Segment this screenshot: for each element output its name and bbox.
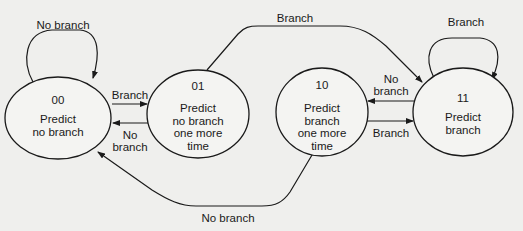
state-00-line-1: Predict: [18, 113, 98, 126]
state-01-line-4: time: [158, 140, 238, 153]
label-10-to-11: Branch: [368, 127, 414, 139]
state-10-line-3: one more: [282, 127, 362, 140]
branch-predictor-state-diagram: 00 Predict no branch 01 Predict no branc…: [0, 0, 523, 231]
label-00-self-loop: No branch: [33, 19, 93, 31]
state-10-text: Predict branch one more time: [282, 102, 362, 152]
label-11-to-10: No branch: [368, 73, 414, 97]
label-01-to-00-line-2: branch: [110, 141, 150, 153]
state-00-text: Predict no branch: [18, 113, 98, 138]
label-11-self-loop: Branch: [443, 16, 489, 28]
state-01-line-2: no branch: [158, 115, 238, 128]
state-01-id: 01: [185, 80, 211, 92]
state-11-line-2: branch: [423, 124, 503, 137]
state-01-line-1: Predict: [158, 102, 238, 115]
state-01-text: Predict no branch one more time: [158, 102, 238, 152]
state-00-id: 00: [45, 94, 71, 106]
state-01-line-3: one more: [158, 127, 238, 140]
label-11-to-10-line-1: No: [368, 73, 414, 85]
state-11-line-1: Predict: [423, 111, 503, 124]
state-11-id: 11: [450, 92, 476, 104]
state-10-line-4: time: [282, 140, 362, 153]
label-01-to-00-line-1: No: [110, 129, 150, 141]
state-11-text: Predict branch: [423, 111, 503, 136]
label-00-to-01: Branch: [110, 89, 150, 101]
label-01-to-00: No branch: [110, 129, 150, 153]
arrow-10-to-00: [98, 152, 312, 206]
label-01-to-11: Branch: [270, 12, 320, 24]
state-00-line-2: no branch: [18, 126, 98, 139]
state-10-line-2: branch: [282, 115, 362, 128]
state-10-line-1: Predict: [282, 102, 362, 115]
label-11-to-10-line-2: branch: [368, 85, 414, 97]
state-10-id: 10: [309, 79, 335, 91]
self-loop-00-arrow: [27, 30, 97, 82]
label-10-to-00: No branch: [198, 212, 258, 224]
